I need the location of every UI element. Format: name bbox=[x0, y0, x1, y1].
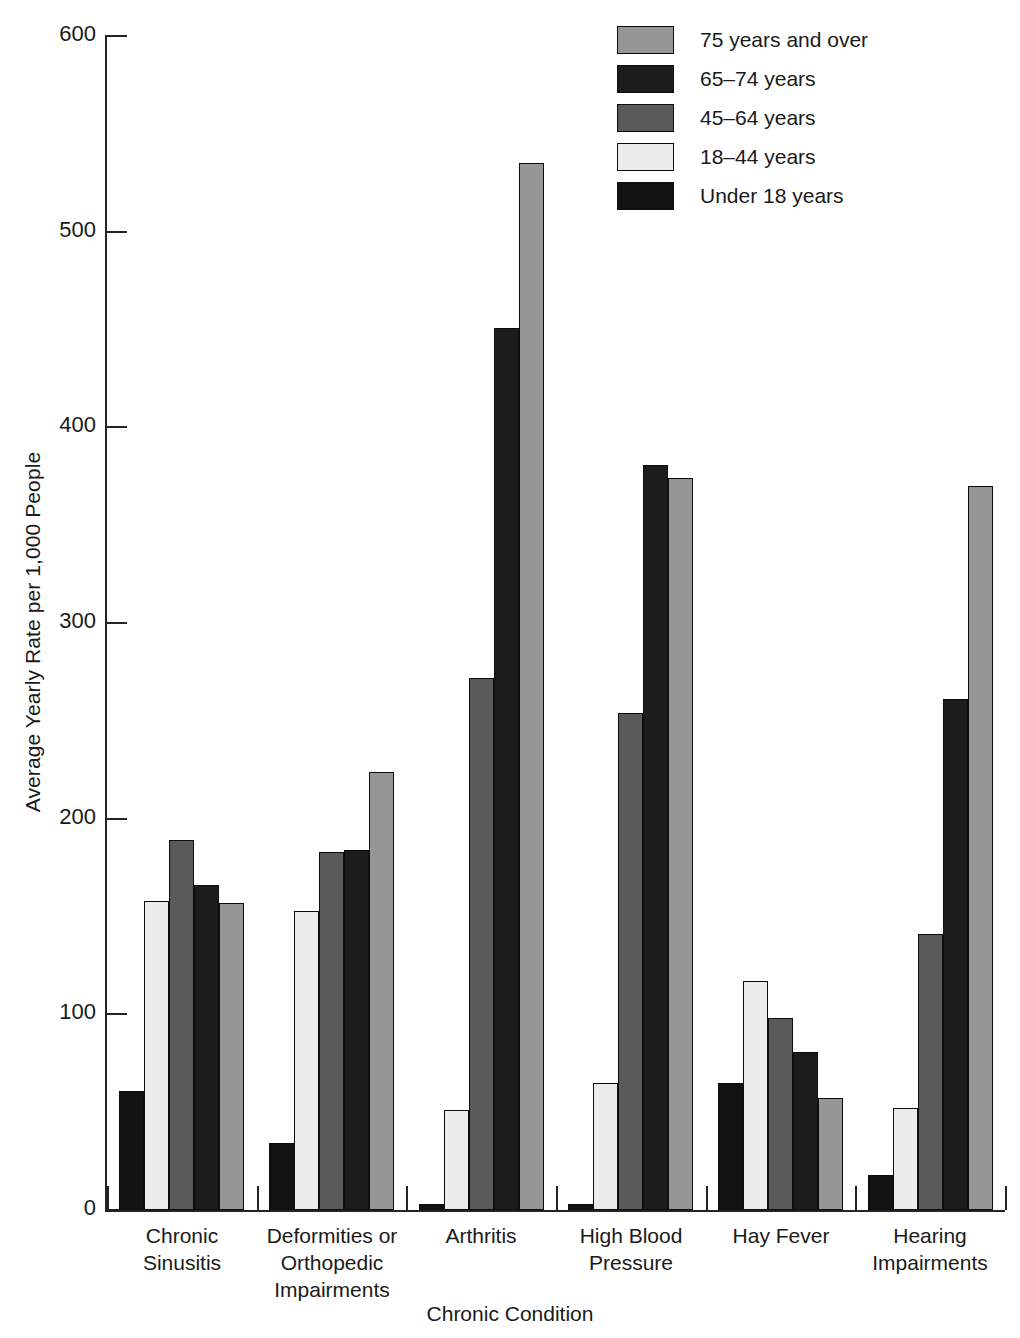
bar bbox=[144, 901, 169, 1210]
legend-item: 18–44 years bbox=[617, 143, 947, 171]
bar bbox=[793, 1052, 818, 1210]
bar bbox=[194, 885, 219, 1210]
bar bbox=[643, 465, 668, 1210]
legend-item: 65–74 years bbox=[617, 65, 947, 93]
legend-swatch-icon bbox=[617, 104, 674, 132]
legend-item: Under 18 years bbox=[617, 182, 947, 210]
bar bbox=[294, 911, 319, 1210]
bar bbox=[968, 486, 993, 1210]
bar bbox=[469, 678, 494, 1210]
bar bbox=[169, 840, 194, 1210]
legend-swatch-icon bbox=[617, 182, 674, 210]
bar bbox=[593, 1083, 618, 1210]
legend-swatch-icon bbox=[617, 26, 674, 54]
bar bbox=[918, 934, 943, 1210]
legend-swatch-icon bbox=[617, 65, 674, 93]
bar-chart-figure: Average Yearly Rate per 1,000 People 010… bbox=[0, 0, 1020, 1338]
bar bbox=[419, 1204, 444, 1210]
bar bbox=[743, 981, 768, 1210]
bar bbox=[494, 328, 519, 1210]
legend-item-label: 75 years and over bbox=[700, 28, 868, 52]
bar bbox=[868, 1175, 893, 1210]
legend-item-label: Under 18 years bbox=[700, 184, 844, 208]
bar bbox=[718, 1083, 743, 1210]
bar bbox=[269, 1143, 294, 1210]
bar bbox=[943, 699, 968, 1210]
bar bbox=[519, 163, 544, 1210]
bar bbox=[344, 850, 369, 1210]
bar bbox=[893, 1108, 918, 1210]
bar bbox=[818, 1098, 843, 1210]
bar bbox=[369, 772, 394, 1210]
legend-swatch-icon bbox=[617, 143, 674, 171]
bar bbox=[219, 903, 244, 1210]
bar bbox=[568, 1204, 593, 1210]
legend-item-label: 45–64 years bbox=[700, 106, 816, 130]
bar bbox=[768, 1018, 793, 1210]
legend-item-label: 65–74 years bbox=[700, 67, 816, 91]
bar bbox=[618, 713, 643, 1210]
bar bbox=[668, 478, 693, 1210]
bar bbox=[119, 1091, 144, 1210]
legend-item-label: 18–44 years bbox=[700, 145, 816, 169]
bar bbox=[319, 852, 344, 1210]
bar bbox=[444, 1110, 469, 1210]
legend: 75 years and over65–74 years45–64 years1… bbox=[617, 26, 947, 221]
legend-item: 45–64 years bbox=[617, 104, 947, 132]
legend-item: 75 years and over bbox=[617, 26, 947, 54]
